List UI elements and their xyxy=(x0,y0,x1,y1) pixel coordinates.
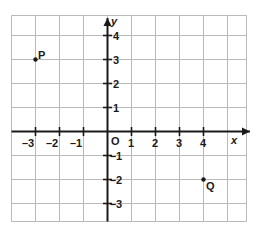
y-tick-label-1: 1 xyxy=(113,103,119,114)
x-tick-label--3: –3 xyxy=(22,138,34,149)
y-axis xyxy=(104,18,112,222)
origin-label: O xyxy=(111,136,120,147)
x-tick-label-4: 4 xyxy=(200,138,206,149)
point-label-q: Q xyxy=(206,181,215,192)
coordinate-plane-figure xyxy=(0,0,259,238)
y-tick-label--2: –2 xyxy=(110,175,122,186)
x-tick-label-1: 1 xyxy=(128,138,134,149)
y-tick-label--3: –3 xyxy=(110,199,122,210)
x-tick-label--1: –1 xyxy=(70,138,82,149)
x-tick-label--2: –2 xyxy=(46,138,58,149)
y-tick-label--1: –1 xyxy=(110,151,122,162)
x-tick-label-2: 2 xyxy=(152,138,158,149)
y-tick-label-3: 3 xyxy=(113,55,119,66)
x-axis-label: x xyxy=(231,135,237,146)
y-tick-label-2: 2 xyxy=(113,79,119,90)
x-tick-label-3: 3 xyxy=(176,138,182,149)
point-label-p: P xyxy=(38,50,45,61)
y-axis-label: y xyxy=(111,16,117,27)
y-tick-label-4: 4 xyxy=(113,31,119,42)
